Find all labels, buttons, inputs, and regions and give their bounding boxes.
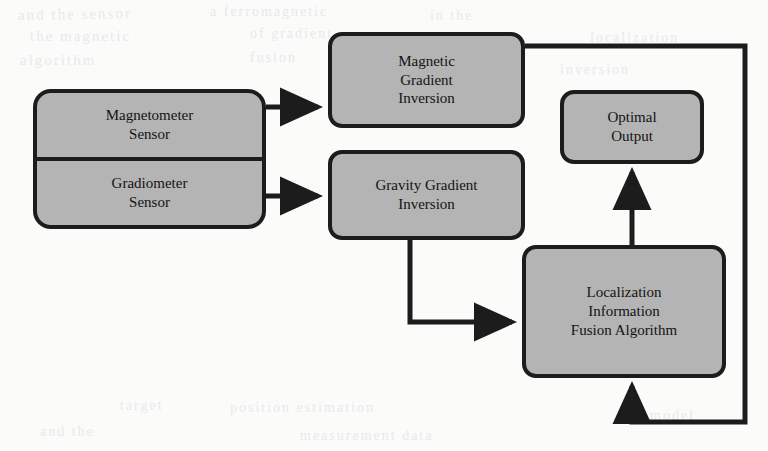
gravity-gradient-inversion-line-1: Gravity Gradient: [375, 176, 477, 195]
diagram-canvas: and the sensora ferromagneticin thethe m…: [0, 0, 768, 451]
sensor-module[interactable]: Magnetometer Sensor Gradiometer Sensor: [33, 89, 266, 229]
node-gravity-gradient-inversion[interactable]: Gravity Gradient Inversion: [328, 150, 525, 240]
magnetic-gradient-inversion-line-3: Inversion: [398, 89, 455, 108]
magnetometer-sensor-line-2: Sensor: [129, 125, 170, 145]
fusion-algorithm-line-2: Information: [588, 302, 660, 321]
fusion-algorithm-line-3: Fusion Algorithm: [571, 321, 677, 340]
gravity-gradient-inversion-line-2: Inversion: [398, 195, 455, 214]
magnetic-gradient-inversion-line-2: Gradient: [400, 71, 452, 90]
node-magnetic-gradient-inversion[interactable]: Magnetic Gradient Inversion: [328, 32, 525, 128]
optimal-output-line-2: Output: [611, 127, 653, 146]
node-localization-information-fusion-algorithm[interactable]: Localization Information Fusion Algorith…: [522, 245, 726, 378]
magnetic-gradient-inversion-line-1: Magnetic: [398, 52, 455, 71]
connector-gravity-inversion-to-fusion: [410, 240, 512, 322]
gradiometer-sensor-line-1: Gradiometer: [112, 174, 188, 194]
gradiometer-sensor-line-2: Sensor: [129, 193, 170, 213]
node-gradiometer-sensor[interactable]: Gradiometer Sensor: [37, 161, 262, 225]
magnetometer-sensor-line-1: Magnetometer: [106, 106, 193, 126]
fusion-algorithm-line-1: Localization: [587, 283, 662, 302]
node-optimal-output[interactable]: Optimal Output: [560, 90, 704, 164]
node-magnetometer-sensor[interactable]: Magnetometer Sensor: [37, 93, 262, 157]
optimal-output-line-1: Optimal: [607, 108, 656, 127]
